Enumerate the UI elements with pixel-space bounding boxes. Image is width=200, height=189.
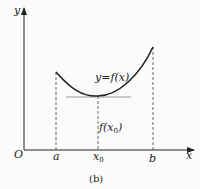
diagram: y x O a x0 b y=f(x) f(x0) (b): [0, 0, 200, 189]
tangent-value-label: f(x0): [98, 121, 122, 135]
caption: (b): [89, 173, 103, 184]
tick-b: b: [149, 152, 156, 165]
tick-x0: x0: [93, 150, 104, 164]
curve-label: y=f(x): [94, 71, 129, 84]
tick-a: a: [53, 150, 60, 163]
x-axis-label: x: [186, 149, 193, 162]
origin-label: O: [14, 148, 23, 161]
y-axis-label: y: [13, 4, 21, 17]
